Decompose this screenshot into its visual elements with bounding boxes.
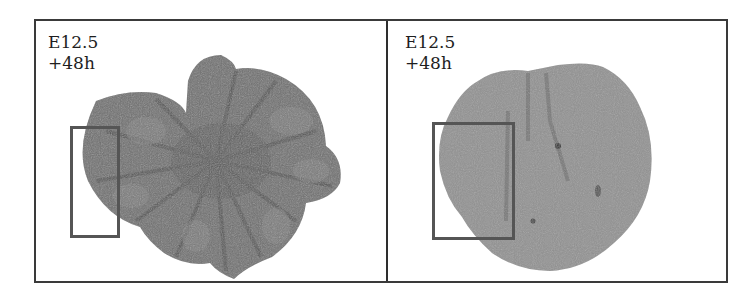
panel-label-left: E12.5 +48h — [48, 32, 98, 74]
panel-label-right: E12.5 +48h — [405, 32, 455, 74]
panel-left: E12.5 +48h — [36, 21, 386, 281]
panel-right: E12.5 +48h — [388, 21, 726, 281]
stage-label: E12.5 — [405, 32, 455, 53]
time-label: +48h — [405, 53, 455, 74]
time-label: +48h — [48, 53, 98, 74]
roi-box-left — [70, 126, 120, 238]
stage-label: E12.5 — [48, 32, 98, 53]
figure-frame: E12.5 +48h — [34, 19, 728, 283]
roi-box-right — [432, 122, 515, 240]
